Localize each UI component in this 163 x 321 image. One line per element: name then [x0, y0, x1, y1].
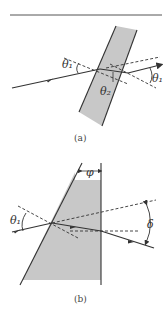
- theta1-label: θ₁: [62, 58, 73, 71]
- caption-a: (a): [74, 133, 86, 143]
- theta2-label: θ₂: [100, 85, 111, 98]
- theta1-arc: [77, 63, 79, 73]
- theta1-exit-label: θ₁: [152, 72, 163, 85]
- incident-ray: [12, 69, 100, 88]
- caption-b: (b): [74, 294, 87, 304]
- figure-b: φ θ₁ δ (b): [10, 160, 156, 304]
- theta1-arc-b: [22, 213, 26, 231]
- exit-ray-b: [101, 231, 154, 248]
- delta-label: δ: [147, 218, 154, 231]
- phi-label: φ: [86, 166, 94, 179]
- diagram-canvas: θ₁ θ₂ θ₁ (a) φ θ₁ δ (b): [0, 0, 163, 321]
- figure-a: θ₁ θ₂ θ₁ (a): [12, 26, 163, 143]
- theta1-label-b: θ₁: [10, 214, 21, 227]
